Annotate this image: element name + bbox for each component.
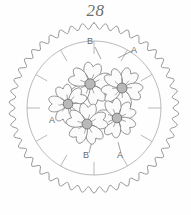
tick-mark [141,135,152,142]
flower-center [82,119,93,130]
part-label-a: A [131,45,137,55]
tick-mark [141,75,152,82]
figure-container: 28 BAABA [0,0,191,215]
pattern-illustration: BAABA [0,22,191,215]
part-label-a: A [49,115,55,125]
tick-mark [36,135,47,142]
figure-number-caption: 28 [0,1,191,21]
leader-line [95,47,101,59]
flower-cluster [42,59,151,147]
part-label-b: B [87,36,93,46]
part-label-a: A [117,150,123,160]
tick-mark [121,50,128,61]
tick-mark [61,50,68,61]
tick-mark [61,155,68,166]
leader-line [118,51,132,58]
tick-mark [36,75,47,82]
part-label-b: B [83,150,89,160]
